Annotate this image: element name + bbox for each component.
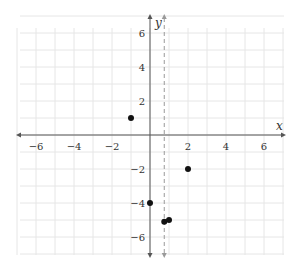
- x-tick-label: 4: [223, 141, 229, 152]
- data-point: [147, 200, 153, 206]
- y-tick-label: 4: [139, 62, 145, 73]
- data-point: [185, 166, 191, 172]
- x-tick-label: −4: [67, 141, 82, 152]
- y-tick-label: 2: [139, 96, 145, 107]
- y-tick-label: −6: [130, 232, 145, 243]
- x-tick-label: 2: [185, 141, 191, 152]
- y-tick-label: −2: [130, 164, 145, 175]
- y-tick-label: 6: [139, 28, 145, 39]
- x-axis-label: x: [276, 119, 283, 133]
- asymptote-down-arrow-icon: [162, 253, 167, 258]
- x-tick-label: −6: [29, 141, 44, 152]
- x-tick-label: −2: [105, 141, 120, 152]
- coordinate-plane: −6−4−2246−6−4−2246 x y: [0, 0, 296, 269]
- y-tick-label: −4: [130, 198, 145, 209]
- data-point: [128, 115, 134, 121]
- y-axis-label: y: [154, 16, 162, 30]
- data-point: [166, 217, 172, 223]
- y-axis-down-arrow-icon: [148, 253, 153, 258]
- x-tick-label: 6: [261, 141, 267, 152]
